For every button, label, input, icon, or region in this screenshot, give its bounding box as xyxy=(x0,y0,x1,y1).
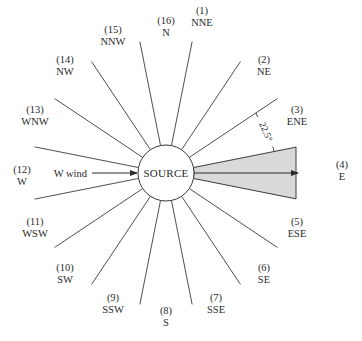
direction-number: (7) xyxy=(210,292,223,304)
direction-name: WSW xyxy=(22,228,48,239)
sector-boundary-line xyxy=(55,189,143,248)
direction-name: NNW xyxy=(100,36,125,47)
direction-name: WNW xyxy=(21,116,48,127)
direction-name: NNE xyxy=(191,17,213,28)
direction-number: (13) xyxy=(26,104,44,116)
direction-name: NW xyxy=(56,66,74,77)
angle-tick xyxy=(256,113,258,117)
direction-number: (15) xyxy=(104,24,122,36)
direction-number: (2) xyxy=(258,54,271,66)
direction-label-ene: (3)ENE xyxy=(287,104,307,127)
direction-number: (12) xyxy=(13,164,31,176)
direction-label-ssw: (9)SSW xyxy=(102,292,124,315)
sector-boundary-line xyxy=(182,62,241,150)
direction-number: (1) xyxy=(196,5,209,17)
direction-label-nnw: (15)NNW xyxy=(100,24,125,47)
direction-label-wsw: (11)WSW xyxy=(22,216,48,239)
sector-boundary-line xyxy=(140,42,161,146)
direction-number: (3) xyxy=(291,104,304,116)
direction-number: (9) xyxy=(107,292,120,304)
sector-boundary-line xyxy=(171,42,192,146)
direction-number: (4) xyxy=(336,159,349,171)
sector-boundary-line xyxy=(140,200,161,304)
sector-boundary-line xyxy=(189,189,277,248)
direction-name: E xyxy=(339,171,345,182)
direction-name: ESE xyxy=(288,228,307,239)
direction-name: SW xyxy=(57,274,73,285)
direction-label-n: (16)N xyxy=(157,15,175,38)
direction-label-e: (4)E xyxy=(336,159,349,182)
direction-number: (16) xyxy=(157,15,175,27)
angle-tick xyxy=(273,147,274,152)
direction-number: (10) xyxy=(56,262,74,274)
wind-direction-sector-diagram: SOURCE W wind 22.5° (1)NNE(2)NE(3)ENE(4)… xyxy=(0,0,362,341)
direction-label-wnw: (13)WNW xyxy=(21,104,48,127)
direction-label-nne: (1)NNE xyxy=(191,5,213,28)
sector-boundary-line xyxy=(171,200,192,304)
wind-label: W wind xyxy=(54,168,88,179)
angle-annotation: 22.5° xyxy=(256,113,275,152)
angle-label: 22.5° xyxy=(257,120,274,143)
sector-boundary-line xyxy=(35,178,139,199)
direction-label-w: (12)W xyxy=(13,164,31,187)
direction-name: W xyxy=(17,176,27,187)
direction-number: (5) xyxy=(291,216,304,228)
direction-number: (14) xyxy=(56,54,74,66)
source-label: SOURCE xyxy=(143,167,188,179)
direction-number: (8) xyxy=(160,305,173,317)
direction-name: SSE xyxy=(207,304,225,315)
direction-label-sw: (10)SW xyxy=(56,262,74,285)
sector-boundary-line xyxy=(92,62,151,150)
sector-boundary-line xyxy=(92,196,151,284)
direction-name: ENE xyxy=(287,116,307,127)
direction-number: (6) xyxy=(258,262,271,274)
direction-label-nw: (14)NW xyxy=(56,54,74,77)
sector-boundary-line xyxy=(182,196,241,284)
direction-label-se: (6)SE xyxy=(258,262,271,285)
direction-name: SE xyxy=(258,274,270,285)
direction-label-ne: (2)NE xyxy=(257,54,271,77)
direction-number: (11) xyxy=(26,216,44,228)
direction-label-sse: (7)SSE xyxy=(207,292,225,315)
direction-name: S xyxy=(163,317,169,328)
direction-label-ese: (5)ESE xyxy=(288,216,307,239)
direction-name: SSW xyxy=(102,304,124,315)
sector-boundary-line xyxy=(35,147,139,168)
sector-boundary-line xyxy=(55,99,143,158)
direction-name: NE xyxy=(257,66,271,77)
direction-label-s: (8)S xyxy=(160,305,173,328)
direction-name: N xyxy=(162,27,170,38)
